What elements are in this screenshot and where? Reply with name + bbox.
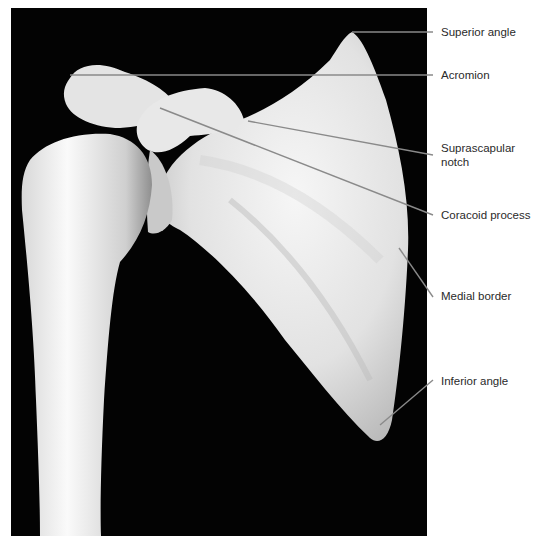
label-superior-angle: Superior angle xyxy=(441,25,516,39)
label-text: Suprascapular xyxy=(441,142,515,154)
scapula-anatomy-figure: Superior angle Acromion Suprascapularnot… xyxy=(0,0,538,549)
label-acromion: Acromion xyxy=(441,68,490,82)
leader-line-suprascapular-notch xyxy=(248,121,433,155)
leader-line-medial-border xyxy=(399,248,433,297)
label-text: Inferior angle xyxy=(441,375,508,387)
label-text: Medial border xyxy=(441,290,511,302)
leader-lines xyxy=(0,0,538,549)
label-text: Coracoid process xyxy=(441,209,530,221)
label-medial-border: Medial border xyxy=(441,289,511,303)
label-inferior-angle: Inferior angle xyxy=(441,374,508,388)
label-text: Acromion xyxy=(441,69,490,81)
label-coracoid-process: Coracoid process xyxy=(441,208,530,222)
leader-line-inferior-angle xyxy=(380,380,433,425)
label-text: notch xyxy=(441,156,469,168)
label-suprascapular-notch: Suprascapularnotch xyxy=(441,141,515,169)
label-text: Superior angle xyxy=(441,26,516,38)
leader-line-coracoid-process xyxy=(160,108,433,215)
